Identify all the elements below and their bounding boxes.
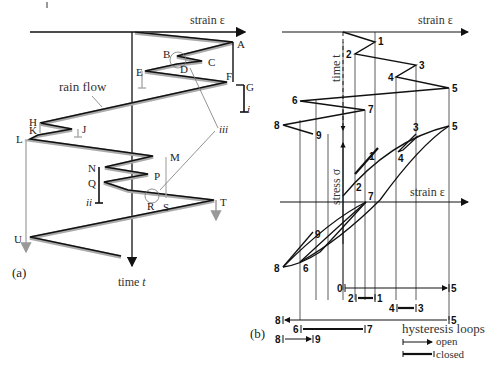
strain-axis-label-b-mid: strain ε xyxy=(410,185,445,199)
label-iii: iii xyxy=(219,123,228,135)
label-B: B xyxy=(163,48,170,60)
label-F: F xyxy=(226,70,232,82)
panel-b: strain ε time t stress σ strain ε xyxy=(250,13,485,360)
label-A: A xyxy=(237,38,245,50)
label-ii: ii xyxy=(86,196,92,208)
ss-8: 8 xyxy=(274,263,280,274)
legend: hysteresis loops open closed xyxy=(402,321,485,360)
rev-4: 4 xyxy=(388,72,394,83)
label-Q: Q xyxy=(88,177,96,189)
ss-4: 4 xyxy=(398,153,404,164)
cycle-8-5-from: 8 xyxy=(275,315,281,326)
legend-closed: closed xyxy=(436,348,465,360)
ss-2: 2 xyxy=(356,182,362,193)
cycle-0-5-from: 0 xyxy=(337,283,343,294)
rev-2: 2 xyxy=(346,49,352,60)
time-axis-label-b: time t xyxy=(329,54,343,82)
legend-title: hysteresis loops xyxy=(402,321,485,336)
ss-5: 5 xyxy=(452,121,458,132)
legend-open: open xyxy=(436,335,458,347)
label-R: R xyxy=(147,200,155,212)
label-N: N xyxy=(88,162,96,174)
time-history-b xyxy=(283,32,449,134)
guide-lines xyxy=(300,32,449,320)
label-J: J xyxy=(82,123,87,135)
cycle-6-7-to: 7 xyxy=(367,324,373,335)
label-E: E xyxy=(136,66,143,78)
rev-6: 6 xyxy=(292,95,298,106)
cycle-8-9-from: 8 xyxy=(275,334,281,345)
rev-5: 5 xyxy=(452,83,458,94)
ss-1: 1 xyxy=(369,151,375,162)
ss-9: 9 xyxy=(315,229,321,240)
rev-7: 7 xyxy=(368,104,374,115)
time-axis-label-a: time t xyxy=(118,275,146,289)
strain-axis-label-b-top: strain ε xyxy=(418,13,453,27)
ss-3: 3 xyxy=(413,122,419,133)
label-G: G xyxy=(246,81,254,93)
cycle-2-1-from: 2 xyxy=(348,293,354,304)
cycle-8-9-to: 9 xyxy=(315,334,321,345)
panel-a: strain ε time t A B C xyxy=(12,2,254,289)
strain-axis-label-a: strain ε xyxy=(190,13,225,27)
cycle-4-3-from: 4 xyxy=(389,303,395,314)
label-C: C xyxy=(208,56,215,68)
label-U: U xyxy=(14,233,22,245)
cycle-0-5-to: 5 xyxy=(451,283,457,294)
panel-b-label: (b) xyxy=(250,326,265,341)
rainflow-diagram: strain ε time t A B C xyxy=(0,0,499,366)
label-D: D xyxy=(180,63,188,75)
cycle-4-3-to: 3 xyxy=(418,303,424,314)
rev-9: 9 xyxy=(316,130,322,141)
label-M: M xyxy=(170,151,180,163)
label-i: i xyxy=(247,103,250,115)
rev-1: 1 xyxy=(378,36,384,47)
ss-7: 7 xyxy=(368,191,374,202)
rain-flow-label: rain flow xyxy=(59,79,107,94)
stress-axis-label: stress σ xyxy=(329,168,343,205)
label-S: S xyxy=(163,201,169,213)
cycle-2-1-to: 1 xyxy=(377,293,383,304)
panel-a-label: (a) xyxy=(12,265,26,280)
ss-6: 6 xyxy=(303,263,309,274)
label-L: L xyxy=(16,133,23,145)
cycle-6-7-from: 6 xyxy=(293,324,299,335)
rev-8: 8 xyxy=(274,120,280,131)
label-K: K xyxy=(29,124,37,136)
label-T: T xyxy=(220,196,227,208)
rev-3: 3 xyxy=(419,60,425,71)
label-P: P xyxy=(154,170,160,182)
